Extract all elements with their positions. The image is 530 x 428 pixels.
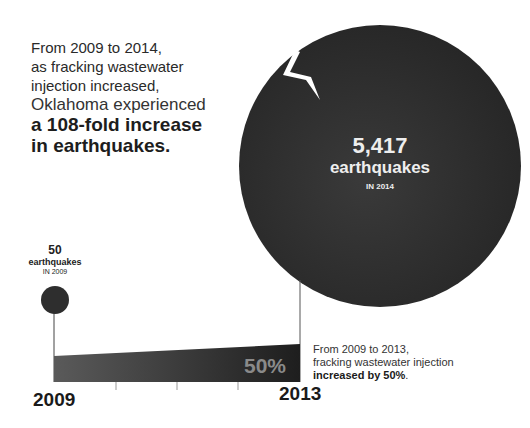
percent-label: 50% (244, 354, 286, 378)
big-value: 5,417 (300, 134, 460, 158)
year-2013-label: 2013 (279, 383, 321, 405)
small-earthquake-circle (41, 286, 69, 314)
note-line2: fracking wastewater injection (313, 356, 523, 369)
big-circle-label: 5,417 earthquakes IN 2014 (300, 134, 460, 191)
small-unit: earthquakes (15, 257, 95, 267)
note-bold: increased by 50% (313, 369, 405, 381)
big-unit: earthquakes (300, 158, 460, 178)
big-year: IN 2014 (300, 182, 460, 191)
note-line1: From 2009 to 2013, (313, 343, 523, 356)
small-year: IN 2009 (15, 267, 95, 276)
note-end: . (405, 369, 408, 381)
small-circle-label: 50 earthquakes IN 2009 (15, 244, 95, 276)
year-2009-label: 2009 (33, 389, 75, 411)
small-value: 50 (15, 244, 95, 257)
injection-note: From 2009 to 2013, fracking wastewater i… (313, 343, 523, 382)
